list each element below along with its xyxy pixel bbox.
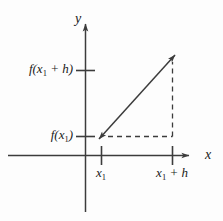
secant-line-figure: y x f(x1 + h) f(x1) x1 x1 + h — [0, 0, 223, 221]
y-tick-label-f-x1-plus-h: f(x1 + h) — [29, 62, 73, 75]
y-tick-label-subscript: 1 — [64, 134, 68, 144]
x-tick-label-tail: + h — [166, 165, 188, 180]
y-tick-label-head: f(x — [29, 61, 43, 76]
y-tick-label-tail: + h) — [47, 61, 73, 76]
x-tick-label-x1: x1 — [96, 166, 106, 179]
secant-line-arrow — [99, 55, 175, 139]
y-tick-label-subscript: 1 — [43, 68, 47, 78]
figure-canvas — [0, 0, 223, 221]
y-tick-label-tail: ) — [69, 127, 73, 142]
y-tick-label-head: f(x — [51, 127, 65, 142]
x-tick-label-subscript: 1 — [102, 172, 106, 182]
y-axis-label: y — [75, 12, 81, 26]
x-tick-label-x1-plus-h: x1 + h — [156, 166, 188, 179]
x-axis-label: x — [205, 148, 211, 162]
x-tick-label-subscript: 1 — [162, 172, 166, 182]
y-tick-label-f-x1: f(x1) — [51, 128, 73, 141]
x-tick-label-head: x — [96, 165, 102, 180]
x-tick-label-head: x — [156, 165, 162, 180]
